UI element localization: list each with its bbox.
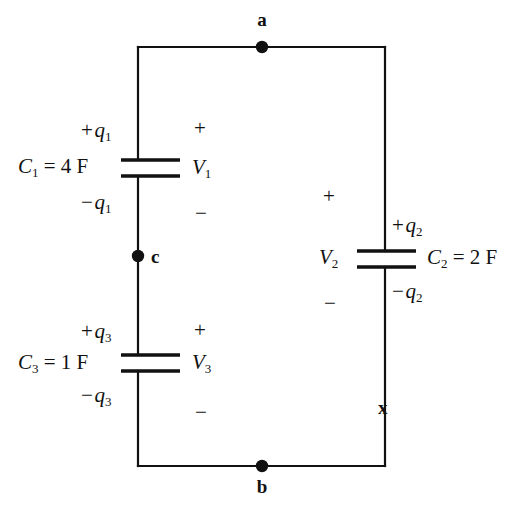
q1-negative-sub: 1 (105, 201, 112, 216)
capacitance-label-c1: C1 = 4 F (18, 156, 88, 179)
voltage-label-v1: V1 (192, 157, 211, 180)
q2-positive-var: q (406, 213, 417, 237)
q2-negative-var: q (406, 279, 417, 303)
v1-symbol: V (192, 155, 205, 179)
polarity-v1-minus: − (195, 203, 207, 224)
q3-negative-sign: − (81, 383, 93, 407)
capacitance-label-c3: C3 = 1 F (18, 352, 88, 375)
node-dot-b (256, 460, 268, 472)
charge-label-q1-negative: − q1 (81, 192, 112, 215)
v3-symbol: V (192, 350, 205, 374)
q1-negative-var: q (95, 190, 106, 214)
c2-value: = 2 F (448, 245, 498, 269)
q3-positive-sub: 3 (105, 330, 112, 345)
charge-label-q1-positive: + q1 (81, 120, 112, 143)
v2-subscript: 2 (332, 256, 339, 271)
capacitance-label-c2: C2 = 2 F (427, 247, 497, 270)
q1-positive-sign: + (81, 118, 93, 142)
polarity-v3-minus: − (195, 402, 207, 423)
q3-positive-sign: + (81, 319, 93, 343)
v3-subscript: 3 (205, 361, 212, 376)
c2-symbol: C (427, 245, 441, 269)
voltage-label-v3: V3 (192, 352, 211, 375)
c3-value: = 1 F (39, 350, 89, 374)
q2-negative-sign: − (392, 279, 404, 303)
charge-label-q3-negative: − q3 (81, 385, 112, 408)
q1-negative-sign: − (81, 190, 93, 214)
polarity-v1-plus: + (194, 118, 206, 139)
node-dot-c (132, 250, 144, 262)
node-label-a: a (257, 10, 267, 29)
q2-negative-sub: 2 (416, 290, 423, 305)
c3-symbol: C (18, 350, 32, 374)
node-dot-a (256, 41, 268, 53)
voltage-label-v2: V2 (319, 247, 338, 270)
q3-negative-sub: 3 (105, 394, 112, 409)
node-label-b: b (257, 477, 268, 496)
q1-positive-var: q (95, 118, 106, 142)
v2-symbol: V (319, 245, 332, 269)
polarity-v2-minus: − (324, 293, 336, 314)
c1-symbol: C (18, 154, 32, 178)
polarity-v3-plus: + (194, 320, 206, 341)
charge-label-q2-negative: − q2 (392, 281, 423, 304)
charge-label-q3-positive: + q3 (81, 321, 112, 344)
q3-positive-var: q (95, 319, 106, 343)
q1-positive-sub: 1 (105, 129, 112, 144)
v1-subscript: 1 (205, 166, 212, 181)
q2-positive-sign: + (392, 213, 404, 237)
charge-label-q2-positive: + q2 (392, 215, 423, 238)
marker-label-x: x (378, 398, 388, 417)
circuit-diagram: a b c x + q1 C1 = 4 F − q1 + V1 − + q3 C… (0, 0, 523, 529)
q3-negative-var: q (95, 383, 106, 407)
node-label-c: c (151, 247, 159, 266)
q2-positive-sub: 2 (416, 224, 423, 239)
c1-value: = 4 F (39, 154, 89, 178)
polarity-v2-plus: + (323, 186, 335, 207)
